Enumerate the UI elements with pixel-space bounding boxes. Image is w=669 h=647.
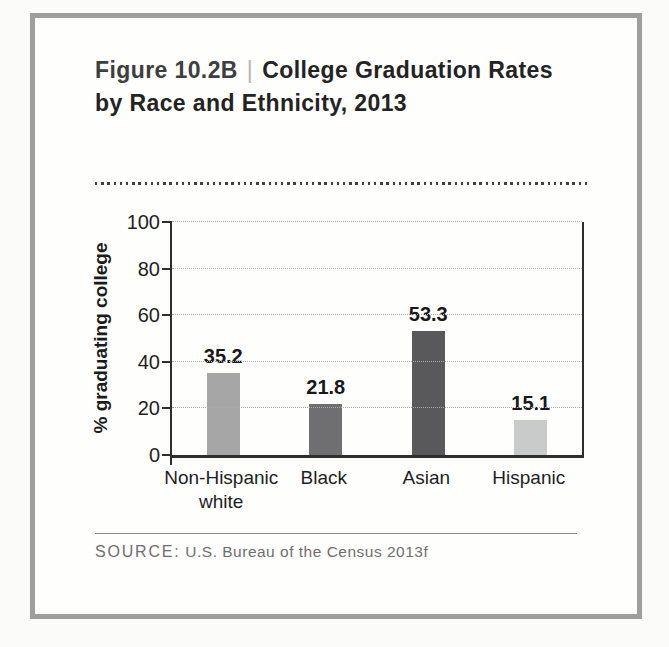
- source-text: U.S. Bureau of the Census 2013f: [185, 543, 428, 560]
- gridline: [172, 407, 582, 408]
- y-tick: [162, 407, 172, 409]
- y-tick: [162, 314, 172, 316]
- y-tick: [162, 361, 172, 363]
- y-tick-label: 20: [138, 398, 160, 418]
- x-tick-label-black: Black: [301, 466, 347, 490]
- x-axis-tick-labels: Non-Hispanic whiteBlackAsianHispanic: [170, 466, 580, 518]
- figure-title: Figure 10.2B|College Graduation Rates by…: [95, 54, 577, 120]
- dotted-separator: [95, 182, 587, 185]
- bar-value-label: 21.8: [306, 376, 345, 399]
- x-tick-label-non-hispanic-white: Non-Hispanic white: [164, 466, 278, 514]
- y-tick-label: 0: [149, 445, 160, 465]
- bar-slot-black: 21.8: [275, 222, 378, 455]
- figure-number: Figure 10.2B: [95, 57, 238, 83]
- figure-card: Figure 10.2B|College Graduation Rates by…: [30, 13, 642, 619]
- gridline: [172, 268, 582, 269]
- x-tick-label-hispanic: Hispanic: [492, 466, 565, 490]
- title-divider: |: [238, 57, 262, 83]
- bar-value-label: 35.2: [204, 345, 243, 368]
- y-tick: [162, 268, 172, 270]
- y-axis-tick-labels: 020406080100: [105, 222, 160, 455]
- bar-asian: [412, 331, 445, 455]
- y-tick: [162, 454, 172, 456]
- gridline: [172, 314, 582, 315]
- y-axis-stub: [170, 455, 172, 465]
- y-tick-label: 40: [138, 352, 160, 372]
- gridline: [172, 221, 582, 222]
- bar-slot-non-hispanic-white: 35.2: [172, 222, 275, 455]
- y-tick-label: 60: [138, 305, 160, 325]
- y-tick: [162, 221, 172, 223]
- bar-hispanic: [514, 420, 547, 455]
- plot-area: 35.221.853.315.1: [170, 222, 584, 458]
- y-tick-label: 100: [127, 212, 160, 232]
- bar-slot-hispanic: 15.1: [480, 222, 583, 455]
- source-note: SOURCE: U.S. Bureau of the Census 2013f: [95, 543, 428, 561]
- scanned-page: Figure 10.2B|College Graduation Rates by…: [0, 0, 669, 647]
- bar-black: [309, 404, 342, 455]
- bars-row: 35.221.853.315.1: [172, 222, 582, 455]
- gridline: [172, 361, 582, 362]
- source-divider: [95, 533, 577, 534]
- bar-non-hispanic-white: [207, 373, 240, 455]
- bar-slot-asian: 53.3: [377, 222, 480, 455]
- bar-value-label: 15.1: [511, 392, 550, 415]
- x-tick-label-asian: Asian: [402, 466, 450, 490]
- y-tick-label: 80: [138, 259, 160, 279]
- source-label: SOURCE:: [95, 543, 181, 560]
